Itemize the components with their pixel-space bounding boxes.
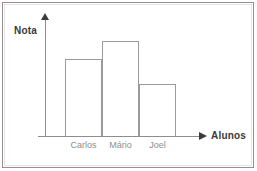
arrow-up-icon — [41, 13, 49, 20]
arrow-right-icon — [199, 132, 207, 140]
plot-area: Nota Alunos CarlosMárioJoel — [0, 0, 257, 171]
bar-chart-figure: Nota Alunos CarlosMárioJoel — [0, 0, 257, 171]
category-label: Carlos — [65, 140, 102, 150]
y-axis-title: Nota — [14, 25, 37, 36]
bar — [139, 84, 176, 136]
y-axis-line — [45, 18, 46, 137]
bar — [65, 59, 102, 136]
x-axis-line — [38, 136, 201, 137]
bar — [102, 41, 139, 136]
category-label: Joel — [139, 140, 176, 150]
x-axis-title: Alunos — [211, 130, 246, 141]
category-label: Mário — [102, 140, 139, 150]
